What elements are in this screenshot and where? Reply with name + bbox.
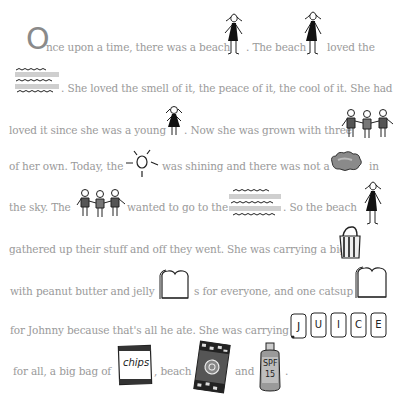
story-text: for all, a big bag of — [13, 366, 111, 377]
story-text: . Now she was grown with three — [184, 125, 352, 136]
story-text: , beach — [154, 366, 191, 377]
spf-value: 15 — [265, 370, 275, 379]
story-text: and — [235, 366, 254, 377]
story-text: . She loved the smell of it, the peace o… — [61, 83, 392, 94]
story-text: of her own. Today, the — [9, 161, 123, 172]
woman-icon — [302, 8, 324, 56]
story-text: . So the beach — [283, 202, 357, 213]
story-text: in — [369, 161, 379, 172]
story-text: nce upon a time, there was a beach — [46, 42, 230, 53]
story-text: loved it since she was a young — [9, 125, 166, 136]
tote-bag-icon — [337, 224, 363, 260]
story-text: with peanut butter and jelly — [10, 286, 154, 297]
sun-icon — [122, 145, 162, 179]
chips-label: chips — [123, 357, 149, 368]
beach-towel-icon — [191, 340, 233, 394]
story-text: for Johnny because that's all he ate. Sh… — [10, 325, 289, 336]
bread-slice-icon — [354, 265, 390, 301]
woman-icon — [223, 10, 245, 56]
juice-letter: C — [354, 319, 363, 330]
story-text: wanted to go to the — [127, 202, 228, 213]
girl-icon — [164, 105, 184, 137]
bread-slice-icon — [158, 268, 192, 302]
story-text: loved the — [327, 42, 375, 53]
story-text: gathered up their stuff and off they wen… — [9, 244, 346, 255]
storybook-page: O nce upon a time, there was a beach . T… — [0, 0, 405, 410]
ocean-waves-icon — [227, 185, 285, 219]
story-text: . The beach — [246, 42, 306, 53]
juice-letter: I — [334, 319, 343, 330]
three-children-icon — [341, 108, 397, 140]
juice-letter: U — [314, 319, 323, 330]
story-text: . — [285, 366, 288, 377]
ocean-waves-icon — [13, 64, 63, 98]
spf-label: SPF — [263, 359, 278, 368]
story-text: was shining and there was not a — [162, 161, 330, 172]
story-text: the sky. The — [9, 202, 71, 213]
juice-letter: J — [294, 320, 303, 333]
three-children-icon — [76, 188, 128, 218]
cloud-icon — [328, 150, 364, 172]
chips-bag-icon: chips — [116, 343, 154, 387]
story-text: s for everyone, and one catsup — [194, 286, 353, 297]
woman-icon — [362, 178, 384, 226]
juice-letter: E — [374, 319, 383, 330]
juice-cans-icon: J U I C E — [289, 310, 389, 342]
sunscreen-bottle-icon: SPF 15 — [255, 341, 285, 393]
